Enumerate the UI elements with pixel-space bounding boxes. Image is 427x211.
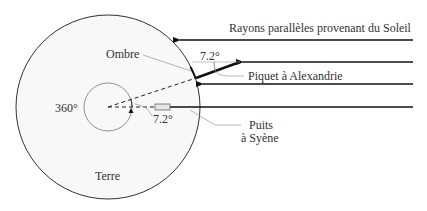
stick-alexandria	[196, 62, 240, 78]
well-label-line2: à Syène	[241, 131, 279, 145]
eratosthenes-diagram: Rayons parallèles provenant du Soleil Om…	[0, 0, 427, 211]
stick-angle-arc	[214, 62, 216, 71]
shadow-label: Ombre	[106, 47, 139, 61]
earth-label: Terre	[95, 169, 120, 183]
full-circle-label: 360°	[55, 101, 78, 115]
sun-rays-label: Rayons parallèles provenant du Soleil	[229, 21, 412, 35]
center-angle-label: 7.2°	[153, 112, 173, 126]
well-syene	[155, 104, 170, 110]
stick-angle-label: 7.2°	[200, 49, 220, 63]
stick-label: Piquet à Alexandrie	[248, 69, 343, 83]
well-label-line1: Puits	[249, 118, 273, 132]
stick-leader	[215, 70, 244, 76]
